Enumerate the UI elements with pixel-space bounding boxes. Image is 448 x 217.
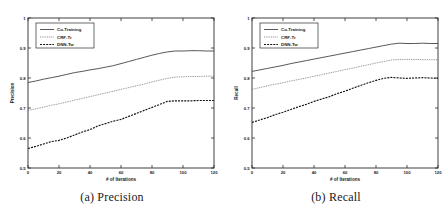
x-tick-label: 40 <box>312 170 317 175</box>
x-tick-label: 20 <box>57 170 62 175</box>
y-tick-label: 0.9 <box>20 46 26 51</box>
y-tick-label: 0.7 <box>20 106 26 111</box>
x-tick-label: 120 <box>211 170 219 175</box>
y-tick-label: 0.6 <box>20 136 26 141</box>
y-tick-label: 1 <box>247 16 250 21</box>
series-co-training <box>28 51 214 83</box>
x-tick-label: 80 <box>374 170 379 175</box>
x-tick-label: 0 <box>27 170 30 175</box>
panel-caption-precision: (a) Precision <box>0 190 224 205</box>
legend-label-co-training: Co-Training <box>57 27 82 32</box>
series-crf-tr <box>28 76 214 110</box>
legend-label-dnn-tw: DNN-Tw <box>57 42 74 47</box>
y-tick-label: 0.8 <box>20 76 26 81</box>
x-tick-label: 60 <box>343 170 348 175</box>
legend-label-dnn-tw: DNN-Tw <box>281 42 298 47</box>
x-axis-title: # of Iterations <box>330 177 361 182</box>
y-tick-label: 1 <box>23 16 26 21</box>
y-tick-label: 0.8 <box>244 76 250 81</box>
x-axis-title: # of Iterations <box>106 177 137 182</box>
x-tick-label: 100 <box>404 170 412 175</box>
y-tick-label: 0.6 <box>244 136 250 141</box>
recall-chart: 0204060801001200.50.60.70.80.91# of Iter… <box>224 0 448 217</box>
series-crf-tr <box>252 59 438 89</box>
panel-recall: 0204060801001200.50.60.70.80.91# of Iter… <box>224 0 448 217</box>
series-dnn-tw <box>252 77 438 122</box>
x-tick-label: 40 <box>88 170 93 175</box>
y-tick-label: 0.7 <box>244 106 250 111</box>
y-tick-label: 0.5 <box>20 166 26 171</box>
x-tick-label: 0 <box>251 170 254 175</box>
panel-caption-recall: (b) Recall <box>224 190 448 205</box>
x-tick-label: 20 <box>281 170 286 175</box>
precision-chart: 0204060801001200.50.60.70.80.91# of Iter… <box>0 0 224 217</box>
x-tick-label: 100 <box>180 170 188 175</box>
x-tick-label: 80 <box>150 170 155 175</box>
y-axis-title: Recall <box>234 86 239 100</box>
x-tick-label: 60 <box>119 170 124 175</box>
y-tick-label: 0.5 <box>244 166 250 171</box>
legend-label-co-training: Co-Training <box>281 27 306 32</box>
legend-label-crf-tr: CRF-Tr <box>281 35 296 40</box>
y-axis-title: Precision <box>10 82 15 103</box>
series-dnn-tw <box>28 101 214 149</box>
x-tick-label: 120 <box>435 170 443 175</box>
y-tick-label: 0.9 <box>244 46 250 51</box>
panel-precision: 0204060801001200.50.60.70.80.91# of Iter… <box>0 0 224 217</box>
figure-root: 0204060801001200.50.60.70.80.91# of Iter… <box>0 0 448 217</box>
legend-label-crf-tr: CRF-Tr <box>57 35 72 40</box>
